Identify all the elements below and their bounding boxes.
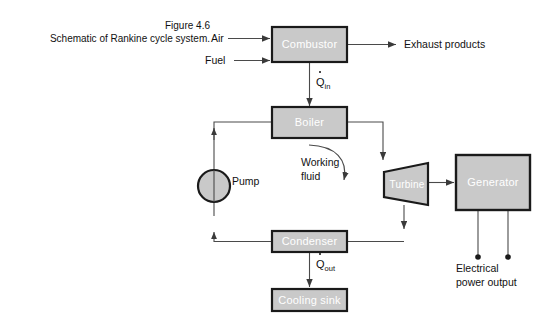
q-in-subscript: in	[325, 82, 331, 91]
air-label: Air	[211, 32, 224, 45]
q-out-symbol: Q	[316, 258, 325, 270]
generator-label: Generator	[456, 177, 530, 188]
q-out-subscript: out	[325, 264, 335, 273]
turbine-label: Turbine	[384, 179, 430, 190]
figure-canvas: Figure 4.6 Schematic of Rankine cycle sy…	[0, 0, 546, 324]
working-fluid-label: Working fluid	[301, 156, 339, 183]
pump-label: Pump	[232, 175, 259, 188]
condenser-to-pump-line	[214, 232, 272, 242]
exhaust-products-label: Exhaust products	[404, 38, 485, 51]
cooling-sink-label: Cooling sink	[272, 295, 347, 306]
q-in-label: Qin	[316, 76, 330, 88]
fuel-label: Fuel	[205, 54, 225, 67]
boiler-to-turbine-line	[347, 122, 383, 160]
combustor-label: Combustor	[272, 39, 347, 50]
q-in-symbol: Q	[316, 76, 325, 88]
terminal-dot-right	[505, 254, 511, 260]
pump-to-boiler-line	[214, 122, 272, 170]
electrical-power-output-label: Electrical power output	[456, 262, 517, 289]
terminal-dot-left	[475, 254, 481, 260]
condenser-label: Condenser	[272, 236, 347, 247]
boiler-label: Boiler	[272, 117, 347, 128]
q-out-label: Qout	[316, 258, 335, 270]
